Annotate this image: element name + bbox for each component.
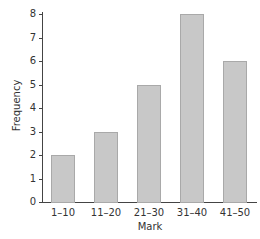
y-tick-label: 7: [22, 33, 36, 43]
y-tick-label: 5: [22, 80, 36, 90]
x-tick-label: 1–10: [41, 207, 85, 218]
y-tick-mark: [39, 132, 42, 133]
x-tick-label: 31–40: [170, 207, 214, 218]
y-tick-mark: [39, 179, 42, 180]
y-tick-mark: [39, 85, 42, 86]
x-tick-label: 41–50: [213, 207, 257, 218]
x-tick-label: 11–20: [84, 207, 128, 218]
y-axis-line: [42, 12, 43, 203]
bar-21–30: [137, 85, 161, 204]
bar-1–10: [51, 155, 75, 203]
bar-11–20: [94, 132, 118, 204]
y-axis-label: Frequency: [11, 76, 22, 136]
y-tick-label: 3: [22, 127, 36, 137]
y-tick-mark: [39, 38, 42, 39]
y-tick-label: 0: [22, 197, 36, 207]
x-tick-label: 21–30: [127, 207, 171, 218]
bar-31–40: [180, 14, 204, 203]
y-tick-mark: [39, 202, 42, 203]
y-tick-label: 2: [22, 150, 36, 160]
y-tick-label: 1: [22, 174, 36, 184]
y-tick-mark: [39, 14, 42, 15]
x-axis-label: Mark: [130, 221, 170, 232]
y-tick-mark: [39, 61, 42, 62]
y-tick-mark: [39, 108, 42, 109]
y-tick-label: 4: [22, 103, 36, 113]
y-tick-mark: [39, 155, 42, 156]
bar-41–50: [223, 61, 247, 203]
y-tick-label: 6: [22, 56, 36, 66]
y-tick-label: 8: [22, 9, 36, 19]
